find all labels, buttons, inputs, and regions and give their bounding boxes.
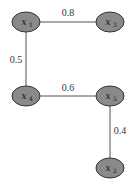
node-label-var: x (105, 91, 110, 101)
node-x4: x 4 (12, 86, 40, 106)
node-x2: x 2 (96, 158, 124, 178)
node-label-var: x (21, 17, 26, 27)
edge-label-x1-x3: 0.8 (62, 7, 75, 18)
node-label-var: x (105, 17, 110, 27)
node-label-sub: 2 (113, 167, 117, 174)
node-label-sub: 1 (29, 21, 33, 28)
graph-diagram: 0.8 0.5 0.6 0.4 x 1 x 3 x 4 x 5 x 2 (0, 0, 133, 190)
edge-label-x5-x2: 0.4 (114, 125, 127, 136)
node-x5: x 5 (96, 86, 124, 106)
node-x3: x 3 (96, 12, 124, 32)
edge-label-x4-x5: 0.6 (62, 82, 75, 93)
node-label-sub: 5 (113, 95, 117, 102)
node-label-var: x (21, 91, 26, 101)
node-label-sub: 3 (113, 21, 117, 28)
edge-label-x1-x4: 0.5 (10, 54, 23, 65)
node-label-var: x (105, 163, 110, 173)
node-label-sub: 4 (29, 95, 33, 102)
node-x1: x 1 (12, 12, 40, 32)
